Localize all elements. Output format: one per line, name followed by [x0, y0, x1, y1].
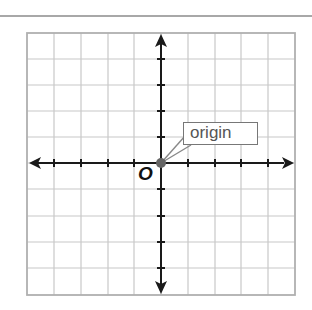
origin-callout: origin — [183, 122, 258, 145]
origin-label: O — [138, 163, 153, 185]
coordinate-plane — [0, 0, 312, 310]
origin-point — [156, 158, 166, 168]
